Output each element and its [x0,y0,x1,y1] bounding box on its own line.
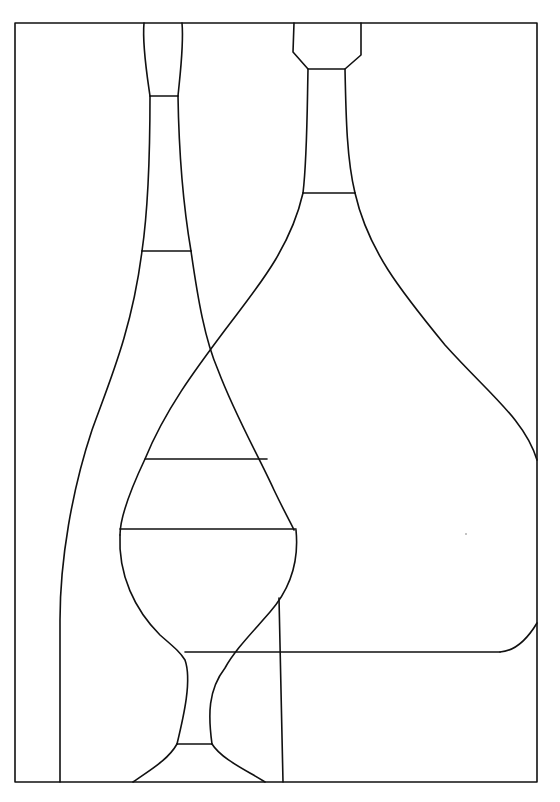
wine-glass-bowl-right [210,530,297,744]
line-art-canvas [0,0,560,802]
tall-bottle-neck-left [142,96,150,251]
right-bottle-cap [293,23,361,69]
right-bottle [120,23,537,652]
right-bottle-base-corner [500,623,537,652]
tall-bottle-body-right [191,251,294,530]
frame-border [15,23,537,782]
right-bottle-shoulder-left [120,193,303,535]
tall-bottle-cap-left [144,23,150,96]
wine-glass-bowl-left [120,535,188,744]
speck [465,533,467,535]
wine-glass [120,459,297,782]
tall-bottle-body-left [60,251,142,782]
tall-bottle-neck-right [178,96,191,251]
wine-glass-foot-left [133,744,177,782]
tall-bottle [60,23,294,782]
right-bottle-neck-right [345,69,355,193]
wine-glass-foot-right [212,744,265,782]
right-bottle-shoulder-right [355,193,537,460]
right-bottle-neck-left [303,69,308,193]
tall-bottle-body-right-lower [279,598,283,782]
tall-bottle-cap-right [178,23,183,96]
